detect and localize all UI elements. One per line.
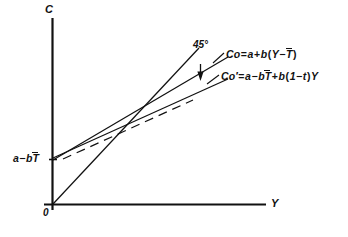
intercept-term-a: a: [13, 152, 19, 164]
y-axis-label: C: [45, 4, 53, 15]
consumption-function-figure: C Y 0 45° a−bT Co=a+b(Y−T) Co′=a−bT+b(1−…: [0, 0, 348, 237]
eq2-minus-2: −: [296, 70, 303, 82]
eq1-barred-t: T: [286, 49, 293, 60]
eq2-variable-y: Y: [311, 70, 318, 82]
eq1-minus: −: [279, 48, 286, 60]
x-axis-label: Y: [271, 198, 278, 209]
consumption-line-co-prime: [53, 79, 228, 158]
forty-five-degree-line: [53, 48, 199, 204]
leader-line-equation-1: [213, 53, 224, 63]
leader-line-equation-2: [207, 75, 219, 84]
eq2-lhs: Co′: [221, 70, 238, 82]
eq2-one: 1: [290, 70, 296, 82]
eq2-equals: =: [238, 70, 245, 82]
intercept-operator: −: [19, 152, 26, 164]
eq2-plus: +: [271, 70, 278, 82]
intercept-barred-t: T: [32, 153, 38, 164]
y-intercept-label: a−bT: [13, 153, 39, 164]
eq1-close-paren: ): [293, 48, 298, 60]
diagram-canvas: [0, 0, 348, 237]
eq1-variable-y: Y: [272, 48, 279, 60]
rotation-arrow-head: [197, 72, 203, 82]
origin-label: 0: [43, 208, 49, 218]
forty-five-degree-label: 45°: [193, 40, 208, 50]
equation-co-prime-label: Co′=a−bT+b(1−t)Y: [221, 71, 318, 82]
dashed-reference-line: [63, 100, 193, 159]
eq2-barred-t: T: [265, 71, 272, 82]
eq1-lhs: Co: [226, 48, 240, 60]
eq1-plus: +: [253, 48, 260, 60]
equation-co-label: Co=a+b(Y−T): [226, 49, 297, 60]
